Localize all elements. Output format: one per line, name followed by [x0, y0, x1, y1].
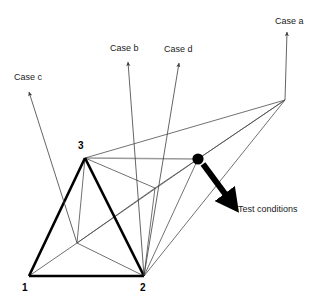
edge-thin-v3-node_mid: [85, 158, 155, 188]
case-b: Case b: [110, 43, 139, 53]
tetrahedron-diagram: 123 Case cCase bCase dCase a Test condit…: [0, 0, 325, 303]
edge-thin-v3-apex_right: [85, 100, 285, 158]
test-conditions-arrow: [203, 164, 234, 206]
test-conditions-arrow-group: [203, 164, 234, 206]
case-a: Case a: [275, 16, 304, 26]
edge-thin-v2-node_mid: [144, 188, 155, 276]
case-d-arrow: [144, 63, 179, 276]
case-d: Case d: [164, 44, 193, 54]
edge-thin-v2-v4: [77, 243, 144, 276]
diagram-canvas: 123 Case cCase bCase dCase a Test condit…: [0, 0, 325, 303]
edge-thick-v3-v2: [85, 158, 144, 276]
case-c: Case c: [14, 72, 43, 82]
vertex-3: 3: [78, 140, 84, 151]
edge-thin-dot-v2: [144, 159, 198, 276]
edge-thick-v1-v3: [29, 158, 85, 276]
faint-edge-group: [85, 158, 198, 159]
edge-thin-v4-dot: [77, 159, 198, 243]
case-a-arrow: [285, 32, 287, 100]
edge-faint-v3-dot: [85, 158, 198, 159]
annotation-label-group: Test conditions: [238, 204, 298, 214]
test-conditions: Test conditions: [238, 204, 298, 214]
case-label-group: Case cCase bCase dCase a: [14, 16, 304, 82]
case-c-arrow: [29, 92, 77, 243]
vertex-2: 2: [140, 282, 146, 293]
case-b-arrow: [128, 62, 144, 276]
edge-thin-v2-apex_right: [144, 100, 285, 276]
thin-edge-group: [29, 100, 285, 276]
edge-thin-dot-apex_right: [198, 100, 285, 159]
stress-state-marker-dot: [192, 153, 203, 164]
vertex-1: 1: [22, 282, 28, 293]
case-arrow-group: [29, 32, 287, 276]
